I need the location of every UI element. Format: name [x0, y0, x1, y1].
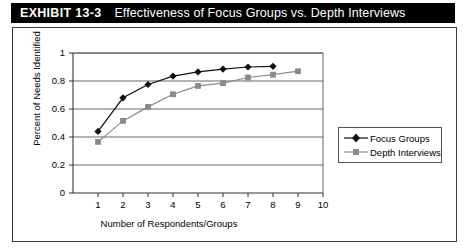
- x-tick-label: 2: [114, 199, 132, 210]
- x-tick-label: 4: [164, 199, 182, 210]
- x-tick-label: 9: [289, 199, 307, 210]
- legend-label-depth-interviews: Depth Interviews: [370, 147, 441, 158]
- diamond-marker-icon: [343, 132, 369, 144]
- line-chart: 00.20.40.60.81 12345678910 Percent of Ne…: [13, 28, 456, 241]
- x-tick-label: 8: [264, 199, 282, 210]
- x-tick-label: 7: [239, 199, 257, 210]
- y-tick-marks: [69, 53, 73, 193]
- x-tick-marks: [98, 193, 323, 197]
- x-tick-label: 1: [89, 199, 107, 210]
- x-tick-label: 10: [314, 199, 332, 210]
- y-tick-label: 1: [39, 47, 65, 58]
- y-axis-title: Percent of Needs Identified: [31, 14, 42, 164]
- x-tick-label: 3: [139, 199, 157, 210]
- y-tick-label: 0.6: [39, 103, 65, 114]
- x-tick-label: 6: [214, 199, 232, 210]
- y-tick-label: 0.4: [39, 131, 65, 142]
- data-series-layer: [94, 63, 301, 145]
- x-tick-label: 5: [189, 199, 207, 210]
- square-marker-icon: [343, 146, 369, 158]
- y-tick-label: 0.2: [39, 159, 65, 170]
- legend-label-focus-groups: Focus Groups: [370, 133, 430, 144]
- y-tick-label: 0.8: [39, 75, 65, 86]
- legend-item-focus-groups: Focus Groups: [343, 131, 437, 145]
- exhibit-header-bar: EXHIBIT 13-3 Effectiveness of Focus Grou…: [11, 3, 455, 23]
- chart-legend: Focus Groups Depth Interviews: [338, 127, 442, 163]
- exhibit-title: Effectiveness of Focus Groups vs. Depth …: [114, 6, 405, 20]
- x-axis-title: Number of Respondents/Groups: [13, 218, 325, 229]
- y-tick-label: 0: [39, 187, 65, 198]
- figure-container: 00.20.40.60.81 12345678910 Percent of Ne…: [12, 27, 457, 242]
- legend-item-depth-interviews: Depth Interviews: [343, 145, 437, 159]
